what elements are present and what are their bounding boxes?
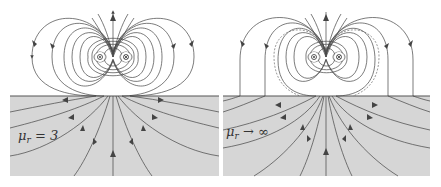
- panel-mu-infinity: μr → ∞: [220, 0, 441, 187]
- panel-mu-3: μr = 3: [0, 0, 220, 187]
- mu-value: → ∞: [239, 124, 269, 139]
- permeability-label-left: μr = 3: [18, 128, 58, 145]
- mu-value: = 3: [31, 128, 58, 143]
- permeability-label-right: μr → ∞: [226, 124, 269, 141]
- dashed-reference-lines: [274, 30, 379, 96]
- field-lines-diagram-left: [0, 0, 220, 187]
- field-lines-diagram-right: [220, 0, 441, 187]
